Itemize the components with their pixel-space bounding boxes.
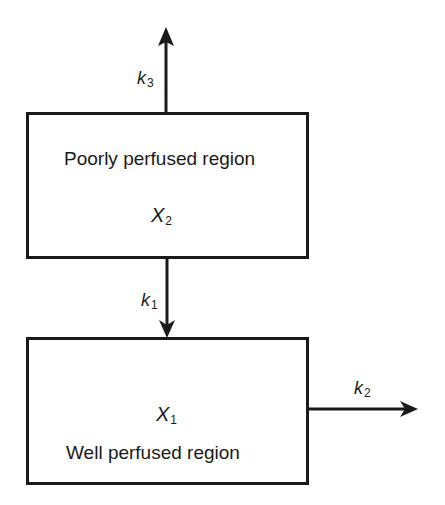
rate-label-k1: k1 — [141, 291, 158, 311]
arrow-k3-up — [158, 27, 174, 113]
compartment-title-poorly-perfused: Poorly perfused region — [64, 149, 255, 168]
arrow-k1-down — [159, 258, 175, 338]
compartment-poorly-perfused — [26, 112, 309, 259]
variable-x1: X1 — [156, 404, 177, 426]
compartment-diagram: Poorly perfused region X2 X1 Well perfus… — [0, 0, 445, 505]
rate-label-k2: k2 — [354, 379, 371, 399]
rate-label-k3: k3 — [137, 69, 154, 89]
arrow-k2-right — [308, 401, 418, 417]
compartment-title-well-perfused: Well perfused region — [66, 443, 240, 462]
variable-x2: X2 — [151, 205, 172, 227]
